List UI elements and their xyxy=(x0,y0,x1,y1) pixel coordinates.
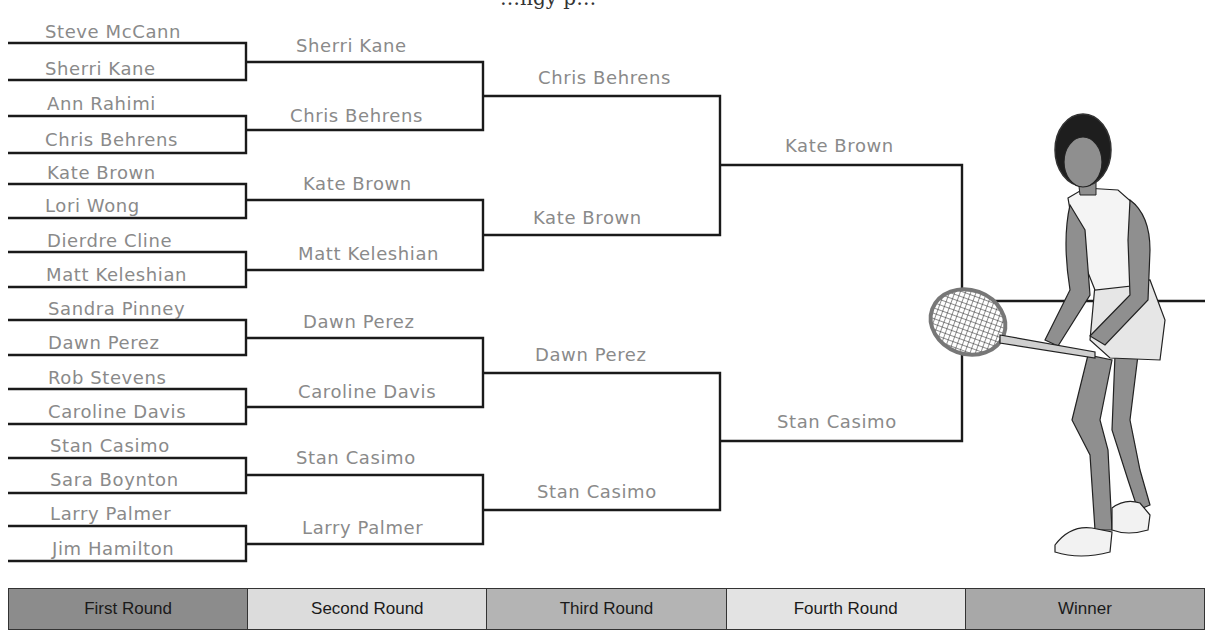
player-name: Lori Wong xyxy=(45,195,140,216)
player-name: Larry Palmer xyxy=(50,503,171,524)
player-name: Dierdre Cline xyxy=(47,230,172,251)
player-name: Stan Casimo xyxy=(537,481,657,502)
second-round-column: Sherri Kane Chris Behrens Kate Brown Mat… xyxy=(246,35,483,544)
legend-third-round: Third Round xyxy=(487,589,726,629)
player-name: Stan Casimo xyxy=(777,411,897,432)
player-name: Kate Brown xyxy=(303,173,412,194)
player-name: Kate Brown xyxy=(47,162,156,183)
player-name: Sherri Kane xyxy=(45,58,156,79)
player-name: Dawn Perez xyxy=(303,311,415,332)
player-name: Sara Boynton xyxy=(50,469,179,490)
player-name: Sherri Kane xyxy=(296,35,407,56)
player-name: Kate Brown xyxy=(785,135,894,156)
third-round-column: Chris Behrens Kate Brown Dawn Perez Stan… xyxy=(483,67,720,510)
player-name: Caroline Davis xyxy=(48,401,186,422)
player-name: Chris Behrens xyxy=(290,105,423,126)
player-name: Kate Brown xyxy=(533,207,642,228)
tournament-bracket: Steve McCann Sherri Kane Ann Rahimi Chri… xyxy=(0,0,1221,580)
player-name: Ann Rahimi xyxy=(47,93,156,114)
player-name: Matt Keleshian xyxy=(298,243,439,264)
player-name: Caroline Davis xyxy=(298,381,436,402)
player-name: Stan Casimo xyxy=(50,435,170,456)
player-name: Chris Behrens xyxy=(538,67,671,88)
round-legend: First Round Second Round Third Round Fou… xyxy=(8,588,1205,630)
legend-first-round: First Round xyxy=(9,589,248,629)
player-name: Rob Stevens xyxy=(48,367,167,388)
player-name: Dawn Perez xyxy=(48,332,160,353)
player-name: Larry Palmer xyxy=(302,517,423,538)
legend-winner: Winner xyxy=(966,589,1204,629)
tennis-player-illustration xyxy=(921,114,1165,556)
player-name: Matt Keleshian xyxy=(46,264,187,285)
player-name: Dawn Perez xyxy=(535,344,647,365)
player-name: Chris Behrens xyxy=(45,129,178,150)
player-name: Stan Casimo xyxy=(296,447,416,468)
fourth-round-column: Kate Brown Stan Casimo xyxy=(720,135,962,441)
player-name: Steve McCann xyxy=(45,21,181,42)
player-name: Jim Hamilton xyxy=(51,538,174,559)
legend-second-round: Second Round xyxy=(248,589,487,629)
first-round-column: Steve McCann Sherri Kane Ann Rahimi Chri… xyxy=(8,21,246,561)
player-name: Sandra Pinney xyxy=(48,298,185,319)
legend-fourth-round: Fourth Round xyxy=(727,589,966,629)
